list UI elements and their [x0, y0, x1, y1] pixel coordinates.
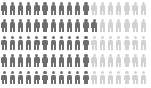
- person-icon: [33, 35, 41, 51]
- person-icon-leg-r: [5, 80, 7, 85]
- person-icon-leg-r: [86, 10, 88, 15]
- person-icon: [123, 35, 131, 51]
- person-icon: [33, 0, 41, 16]
- person-icon-leg-l: [59, 45, 61, 50]
- person-icon-head: [27, 36, 30, 39]
- person-icon-leg-r: [45, 45, 47, 50]
- pictogram-row: [0, 0, 151, 17]
- person-icon: [41, 0, 49, 16]
- person-icon-leg-r: [21, 45, 23, 50]
- person-icon-leg-l: [67, 80, 69, 85]
- person-icon-leg-r: [127, 45, 129, 50]
- person-icon-leg-r: [54, 10, 56, 15]
- person-icon-leg-l: [92, 45, 94, 50]
- person-icon: [115, 52, 123, 68]
- person-icon: [123, 70, 131, 86]
- person-icon: [0, 35, 8, 51]
- person-icon: [139, 70, 147, 86]
- person-icon-leg-l: [84, 80, 86, 85]
- person-icon-leg-r: [62, 80, 64, 85]
- person-icon-leg-r: [95, 10, 97, 15]
- person-icon-leg-l: [108, 28, 110, 33]
- person-icon-head: [68, 36, 71, 39]
- person-icon-leg-l: [133, 10, 135, 15]
- person-icon-leg-r: [45, 28, 47, 33]
- person-icon: [131, 17, 139, 33]
- person-icon-leg-l: [133, 45, 135, 50]
- person-icon-leg-r: [103, 10, 105, 15]
- person-icon-leg-r: [62, 28, 64, 33]
- person-icon-leg-l: [84, 28, 86, 33]
- person-icon-leg-r: [62, 62, 64, 67]
- person-icon-leg-r: [136, 10, 138, 15]
- person-icon: [123, 52, 131, 68]
- person-icon-leg-l: [100, 10, 102, 15]
- person-icon-leg-l: [125, 62, 127, 67]
- person-icon: [115, 70, 123, 86]
- person-icon-leg-r: [136, 28, 138, 33]
- person-icon-leg-l: [51, 28, 53, 33]
- person-icon-leg-r: [95, 62, 97, 67]
- person-icon: [106, 35, 114, 51]
- person-icon: [131, 35, 139, 51]
- person-icon-leg-r: [95, 45, 97, 50]
- person-icon-leg-r: [70, 80, 72, 85]
- person-icon-leg-r: [5, 28, 7, 33]
- person-icon-leg-l: [100, 45, 102, 50]
- person-icon-head: [101, 36, 104, 39]
- person-icon-leg-l: [59, 62, 61, 67]
- person-icon: [16, 52, 24, 68]
- person-icon-leg-l: [75, 80, 77, 85]
- pictogram-row: [0, 17, 151, 34]
- person-icon: [123, 17, 131, 33]
- person-icon: [41, 70, 49, 86]
- person-icon-leg-r: [21, 28, 23, 33]
- person-icon-leg-r: [54, 80, 56, 85]
- person-icon-leg-l: [51, 10, 53, 15]
- person-icon-leg-l: [100, 62, 102, 67]
- person-icon-leg-r: [13, 10, 15, 15]
- person-icon-leg-l: [125, 10, 127, 15]
- person-icon-leg-r: [70, 10, 72, 15]
- person-icon-leg-r: [29, 62, 31, 67]
- person-icon-leg-l: [84, 45, 86, 50]
- person-icon-leg-l: [133, 80, 135, 85]
- person-icon: [8, 52, 16, 68]
- person-icon-leg-l: [67, 28, 69, 33]
- person-icon-leg-l: [59, 28, 61, 33]
- person-icon-leg-l: [75, 62, 77, 67]
- person-icon-leg-l: [34, 28, 36, 33]
- person-icon: [123, 0, 131, 16]
- pictogram-chart: [0, 0, 151, 88]
- person-icon-leg-r: [78, 45, 80, 50]
- person-icon-leg-r: [5, 45, 7, 50]
- person-icon-leg-r: [13, 28, 15, 33]
- person-icon-head: [134, 36, 137, 39]
- person-icon-leg-l: [84, 10, 86, 15]
- person-icon-leg-l: [10, 45, 12, 50]
- person-icon-leg-r: [119, 62, 121, 67]
- person-icon-leg-r: [103, 80, 105, 85]
- person-icon-leg-r: [5, 10, 7, 15]
- person-icon-leg-r: [62, 45, 64, 50]
- person-icon: [115, 0, 123, 16]
- person-icon-head: [27, 71, 30, 74]
- person-icon-leg-r: [45, 80, 47, 85]
- person-icon-leg-r: [111, 10, 113, 15]
- person-icon-leg-l: [141, 62, 143, 67]
- person-icon-leg-l: [92, 10, 94, 15]
- person-icon-leg-r: [136, 62, 138, 67]
- person-icon: [74, 35, 82, 51]
- person-icon-leg-r: [29, 28, 31, 33]
- person-icon: [0, 17, 8, 33]
- person-icon-leg-l: [18, 10, 20, 15]
- person-icon-leg-r: [21, 10, 23, 15]
- person-icon-leg-l: [141, 80, 143, 85]
- person-icon: [66, 52, 74, 68]
- person-icon-leg-l: [2, 62, 4, 67]
- person-icon-leg-r: [119, 45, 121, 50]
- person-icon-leg-r: [144, 28, 146, 33]
- person-icon-leg-l: [26, 28, 28, 33]
- person-icon: [16, 17, 24, 33]
- person-icon-head: [109, 36, 112, 39]
